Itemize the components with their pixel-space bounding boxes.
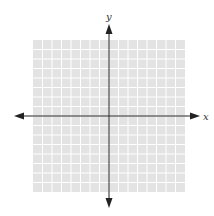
x-axis-left-arrow-icon bbox=[14, 113, 24, 120]
coordinate-plane: x y bbox=[0, 0, 214, 216]
x-axis-right-arrow-icon bbox=[190, 113, 200, 120]
y-axis-label: y bbox=[105, 11, 112, 22]
y-axis-bottom-arrow-icon bbox=[106, 198, 113, 208]
y-axis-top-arrow-icon bbox=[106, 24, 113, 34]
x-axis-label: x bbox=[203, 111, 209, 122]
